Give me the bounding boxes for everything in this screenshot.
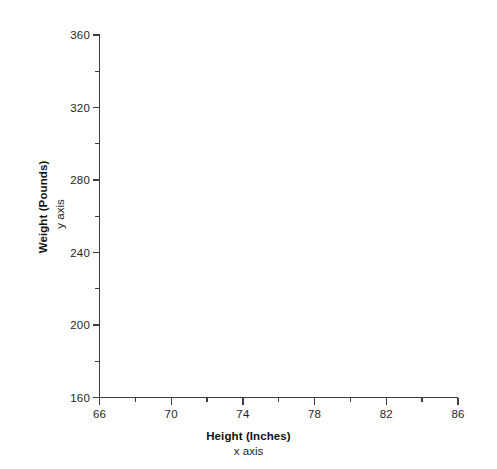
x-tick-label: 74 — [236, 408, 249, 420]
x-tick-label: 70 — [165, 408, 178, 420]
y-axis-title-main: Weight (Pounds) — [37, 161, 49, 254]
y-tick-label: 160 — [58, 392, 90, 404]
y-axis-subtitle: y axis — [50, 139, 68, 289]
y-tick-label: 360 — [58, 29, 90, 41]
y-tick-label: 320 — [58, 102, 90, 114]
x-tick-label: 82 — [380, 408, 393, 420]
x-tick-label: 66 — [93, 408, 106, 420]
y-axis-ticks — [93, 35, 100, 398]
chart-container: 160200240280320360 667074788286 Height (… — [0, 0, 497, 469]
y-axis-title-sub: y axis — [54, 199, 66, 228]
y-axis-title: Weight (Pounds) — [33, 132, 51, 282]
x-tick-label: 78 — [308, 408, 321, 420]
x-axis-title-sub: x axis — [0, 445, 497, 457]
x-axis-title: Height (Inches) x axis — [0, 430, 497, 457]
x-tick-label: 86 — [451, 408, 464, 420]
x-axis-title-main: Height (Inches) — [0, 430, 497, 442]
plot-area — [99, 35, 458, 397]
y-tick-label: 200 — [58, 319, 90, 331]
